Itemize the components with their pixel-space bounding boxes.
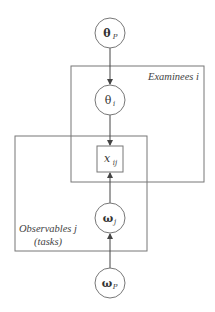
node-theta-p: θ P — [95, 18, 125, 48]
diagram-canvas: Examinees i Observables j (tasks) θ P θ … — [0, 0, 215, 312]
node-x-ij: x ij — [97, 146, 123, 172]
plate-observables-label: Observables j — [19, 223, 77, 234]
node-theta-i-sub: i — [113, 100, 115, 108]
node-omega-j-symbol: ω — [103, 212, 114, 225]
node-theta-p-sub: P — [112, 33, 118, 41]
node-omega-p: ω P — [95, 268, 125, 298]
plate-diagram: Examinees i Observables j (tasks) θ P θ … — [0, 0, 215, 312]
node-theta-p-symbol: θ — [103, 27, 110, 40]
node-theta-i: θ i — [95, 85, 125, 115]
node-omega-j: ω j — [95, 203, 125, 233]
plate-observables: Observables j (tasks) — [15, 136, 147, 251]
plate-examinees-label: Examinees i — [147, 71, 199, 82]
node-x-ij-symbol: x — [104, 152, 111, 165]
node-omega-p-sub: P — [112, 283, 118, 291]
plate-examinees: Examinees i — [71, 66, 204, 182]
node-theta-i-symbol: θ — [105, 94, 112, 107]
plate-observables-sublabel: (tasks) — [34, 236, 62, 248]
node-omega-p-symbol: ω — [102, 277, 113, 290]
